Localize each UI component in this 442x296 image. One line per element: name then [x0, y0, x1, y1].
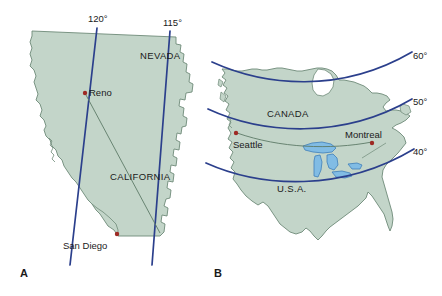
grid-label-115: 115°	[163, 17, 182, 28]
map-figure: 120° 115° NEVADA CALIFORNIA Reno San Die…	[0, 0, 442, 296]
city-label-san-diego: San Diego	[63, 240, 107, 251]
pacific-northwest-coast-detail	[218, 79, 223, 87]
grid-label-60: 60°	[413, 50, 428, 61]
city-label-reno: Reno	[89, 87, 112, 98]
city-dot-montreal	[370, 141, 374, 145]
panel-letter-b: B	[214, 267, 222, 279]
city-dot-reno	[83, 91, 87, 95]
region-label-california: CALIFORNIA	[110, 171, 171, 182]
panel-letter-a: A	[20, 267, 28, 279]
grid-label-120: 120°	[88, 13, 108, 24]
region-label-nevada: NEVADA	[140, 50, 181, 61]
panel-b: 60° 50° 40° CANADA U.S.A. Seattle Montre…	[206, 50, 428, 240]
grid-label-50: 50°	[413, 96, 428, 107]
region-label-usa: U.S.A.	[277, 183, 307, 194]
panel-a: 120° 115° NEVADA CALIFORNIA Reno San Die…	[30, 13, 193, 265]
california-nevada-landmass	[30, 31, 193, 236]
city-label-montreal: Montreal	[345, 129, 382, 140]
region-label-canada: CANADA	[267, 108, 309, 119]
city-dot-san-diego	[115, 232, 119, 236]
grid-label-40: 40°	[413, 146, 428, 157]
city-dot-seattle	[234, 131, 238, 135]
city-label-seattle: Seattle	[233, 139, 263, 150]
figure-canvas: 120° 115° NEVADA CALIFORNIA Reno San Die…	[0, 0, 442, 296]
